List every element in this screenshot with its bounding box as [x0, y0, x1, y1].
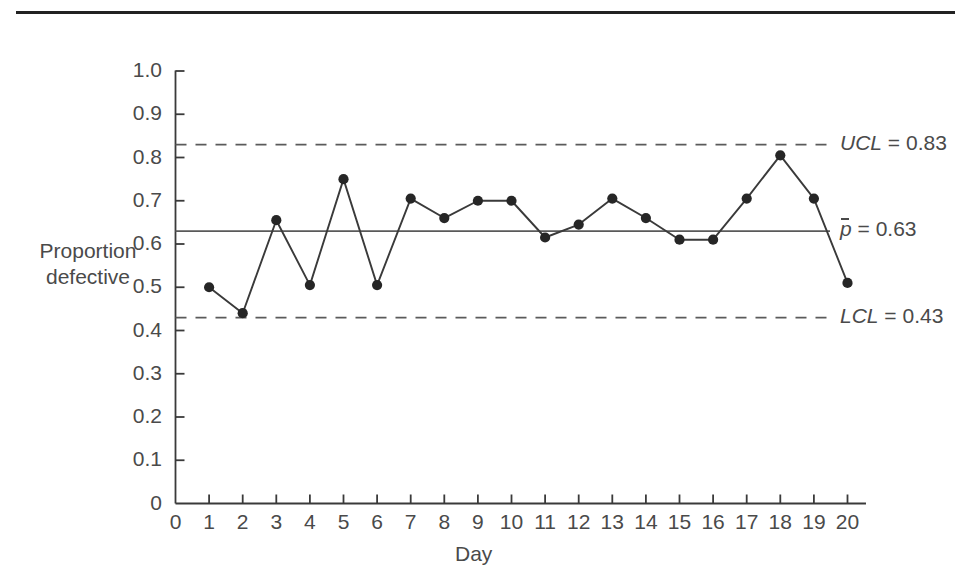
lcl-label-equals: =	[879, 304, 903, 327]
data-point-day-16	[708, 235, 718, 245]
y-tick-label-1.0: 1.0	[104, 58, 162, 82]
data-point-day-19	[809, 193, 819, 203]
data-point-day-13	[607, 193, 617, 203]
data-point-day-15	[674, 235, 684, 245]
y-tick-label-0.4: 0.4	[104, 318, 162, 342]
data-point-day-14	[641, 213, 651, 223]
data-point-day-6	[372, 280, 382, 290]
p-bar-symbol: p	[840, 217, 852, 241]
data-point-day-1	[204, 282, 214, 292]
y-tick-label-0.7: 0.7	[104, 188, 162, 212]
y-tick-label-0.1: 0.1	[104, 447, 162, 471]
lcl-label-text: LCL	[840, 304, 879, 327]
y-tick-label-0.9: 0.9	[104, 101, 162, 125]
y-tick-label-0: 0	[104, 491, 162, 515]
overbar	[841, 218, 849, 220]
x-tick-label-20: 20	[828, 510, 868, 534]
tick-marks	[176, 71, 848, 504]
data-point-day-20	[842, 278, 852, 288]
ucl-label-text: UCL	[840, 131, 882, 154]
center-label-text: p	[840, 217, 852, 240]
data-point-markers	[204, 150, 853, 318]
data-point-day-7	[406, 193, 416, 203]
y-axis-title: Proportion defective	[14, 238, 162, 289]
ucl-label-equals: =	[882, 131, 906, 154]
y-tick-label-0.2: 0.2	[104, 404, 162, 428]
lcl-annotation-label: LCL = 0.43	[840, 304, 943, 328]
y-axis-title-line2: defective	[14, 264, 162, 290]
data-point-day-9	[473, 196, 483, 206]
data-point-day-18	[775, 150, 785, 160]
data-point-day-17	[742, 193, 752, 203]
data-point-day-10	[506, 196, 516, 206]
control-chart-figure: 1.00.90.80.70.60.50.40.30.20.10 01234567…	[0, 0, 973, 587]
lcl-label-value: 0.43	[902, 304, 943, 327]
y-tick-label-0.8: 0.8	[104, 145, 162, 169]
data-point-day-8	[439, 213, 449, 223]
center-label-equals: =	[852, 217, 876, 240]
y-axis-title-line1: Proportion	[14, 238, 162, 264]
data-point-day-12	[574, 219, 584, 229]
ucl-annotation-label: UCL = 0.83	[840, 131, 947, 155]
data-point-day-3	[271, 215, 281, 225]
x-axis-title: Day	[455, 542, 492, 566]
axes-lines	[176, 71, 866, 504]
center-line-annotation-label: p = 0.63	[840, 217, 917, 241]
data-point-day-5	[338, 174, 348, 184]
data-point-day-4	[305, 280, 315, 290]
data-series-line	[209, 155, 847, 313]
data-point-day-2	[238, 308, 248, 318]
control-limit-lines	[176, 145, 831, 318]
data-point-day-11	[540, 232, 550, 242]
ucl-label-value: 0.83	[906, 131, 947, 154]
center-label-value: 0.63	[876, 217, 917, 240]
y-tick-label-0.3: 0.3	[104, 361, 162, 385]
